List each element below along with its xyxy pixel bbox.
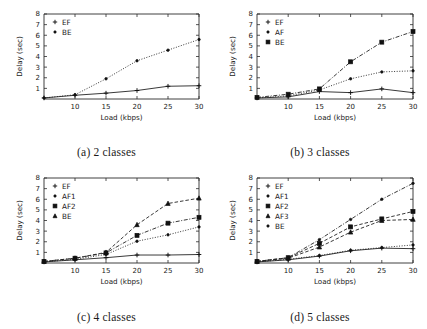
y-tick-label: 1 (36, 249, 40, 257)
legend-entry-label: BE (275, 222, 285, 231)
series-ef (42, 252, 202, 264)
legend-entry-label: AF2 (62, 202, 76, 211)
caption-b: (b) 3 classes (213, 146, 427, 158)
y-tick-label: 7 (36, 21, 40, 29)
legend-entry-label: AF (275, 28, 284, 37)
y-tick-label: 3 (36, 64, 40, 72)
legend-marker (266, 214, 270, 218)
data-point-marker (349, 218, 352, 221)
x-tick-label: 15 (102, 103, 111, 111)
legend-marker (53, 20, 57, 24)
data-point-marker (105, 78, 108, 81)
y-tick-label: 3 (249, 64, 253, 72)
data-point-marker (197, 252, 202, 257)
data-point-marker (349, 225, 353, 229)
data-point-marker (381, 71, 384, 74)
data-point-marker (380, 87, 385, 92)
legend: EFBE (53, 18, 72, 37)
legend-marker (266, 204, 270, 208)
y-tick-label: 2 (249, 238, 253, 246)
legend-entry-label: AF1 (275, 192, 289, 201)
x-tick-label: 30 (195, 103, 204, 111)
data-point-marker (348, 90, 353, 95)
legend-marker (266, 20, 270, 24)
data-point-marker (411, 209, 415, 213)
x-axis-title: Load (kbps) (314, 277, 356, 286)
data-point-marker (411, 30, 415, 34)
series-path (44, 255, 199, 262)
y-tick-label: 2 (36, 74, 40, 82)
x-tick-label: 15 (315, 103, 324, 111)
legend-entry-label: BE (62, 212, 72, 221)
data-point-marker (167, 234, 170, 237)
data-point-marker (256, 260, 259, 263)
caption-c: (c) 4 classes (0, 311, 213, 323)
y-tick-label: 7 (249, 21, 253, 29)
data-point-marker (197, 83, 202, 88)
series-path (44, 86, 199, 98)
legend-entry-label: BE (62, 28, 72, 37)
legend-entry-label: BE (275, 38, 285, 47)
data-point-marker (198, 226, 201, 229)
y-tick-label: 4 (36, 217, 41, 225)
data-point-marker (166, 84, 171, 89)
legend: EFAF1AF2BE (53, 182, 76, 221)
plot-area-c: 123456781015202530Load (kbps)Delay (sec)… (0, 164, 213, 296)
x-tick-label: 20 (346, 267, 355, 275)
x-axis-title: Load (kbps) (100, 113, 142, 122)
y-tick-label: 8 (249, 10, 253, 18)
x-tick-label: 10 (71, 267, 80, 275)
data-point-marker (349, 249, 352, 252)
x-tick-label: 10 (71, 103, 80, 111)
legend-marker (53, 214, 57, 218)
x-tick-label: 25 (377, 267, 386, 275)
legend-entry-label: EF (62, 182, 71, 191)
data-point-marker (136, 240, 139, 243)
plot-area-a: 123456781015202530Load (kbps)Delay (sec)… (0, 0, 213, 132)
legend-marker (53, 184, 57, 188)
y-tick-label: 4 (249, 53, 254, 61)
data-point-marker (135, 222, 139, 226)
data-point-marker (255, 95, 259, 99)
data-point-marker (166, 253, 171, 258)
y-tick-label: 1 (36, 85, 40, 93)
panel-d: 123456781015202530Load (kbps)Delay (sec)… (213, 164, 427, 329)
data-point-marker (135, 233, 139, 237)
series-ef (255, 87, 416, 101)
plot-area-d: 123456781015202530Load (kbps)Delay (sec)… (213, 164, 427, 296)
y-tick-label: 5 (36, 42, 40, 50)
legend-entry-label: AF2 (275, 202, 289, 211)
data-point-marker (43, 97, 46, 100)
x-tick-label: 25 (164, 267, 173, 275)
panel-a: 123456781015202530Load (kbps)Delay (sec)… (0, 0, 213, 164)
x-tick-label: 30 (409, 103, 418, 111)
x-tick-label: 10 (284, 103, 293, 111)
legend-marker (267, 195, 269, 197)
y-axis-title: Delay (sec) (15, 36, 24, 77)
legend: EFAF1AF2AF3BE (266, 182, 289, 231)
data-point-marker (317, 87, 321, 91)
x-axis-title: Load (kbps) (314, 113, 356, 122)
data-point-marker (197, 196, 201, 200)
x-tick-label: 10 (284, 267, 293, 275)
x-tick-label: 25 (377, 103, 386, 111)
legend-marker (266, 184, 270, 188)
y-tick-label: 6 (36, 32, 41, 40)
y-tick-label: 6 (36, 196, 41, 204)
y-tick-label: 6 (249, 196, 254, 204)
legend-marker (266, 40, 270, 44)
y-tick-label: 7 (36, 185, 40, 193)
data-point-marker (380, 40, 384, 44)
x-tick-label: 15 (102, 267, 111, 275)
series-ef (42, 83, 202, 100)
chart-c: 123456781015202530Load (kbps)Delay (sec)… (0, 164, 213, 296)
y-tick-label: 5 (249, 206, 253, 214)
y-tick-label: 8 (249, 174, 253, 182)
data-point-marker (381, 198, 384, 201)
y-tick-label: 8 (36, 174, 40, 182)
x-tick-label: 30 (195, 267, 204, 275)
legend-marker (53, 204, 57, 208)
y-tick-label: 1 (249, 249, 253, 257)
data-point-marker (104, 91, 109, 96)
data-point-marker (167, 49, 170, 52)
